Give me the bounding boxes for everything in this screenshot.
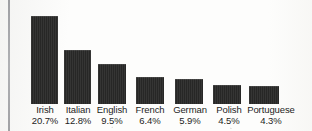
- bar: [31, 16, 58, 104]
- left-margin-rule: [8, 0, 10, 131]
- category-value: 4.3%: [242, 116, 300, 127]
- category-label: Portuguese 4.3%: [242, 105, 300, 126]
- bar-group: [64, 0, 91, 104]
- bar: [213, 85, 241, 104]
- bar: [136, 77, 164, 104]
- bar: [175, 79, 203, 104]
- bar-group: [98, 0, 126, 104]
- bar: [98, 64, 126, 104]
- bar-group: [213, 0, 241, 104]
- bar-group: [136, 0, 164, 104]
- bar-group: [249, 0, 279, 104]
- bar: [64, 50, 91, 104]
- bar-chart-plot-area: Irish 20.7% Italian 12.8% English 9.5% F…: [14, 0, 312, 131]
- category-labels-layer: Irish 20.7% Italian 12.8% English 9.5% F…: [14, 104, 312, 131]
- bar: [249, 86, 279, 104]
- chart-image: Irish 20.7% Italian 12.8% English 9.5% F…: [0, 0, 312, 131]
- category-name: Portuguese: [242, 105, 300, 116]
- bar-group: [175, 0, 203, 104]
- bars-layer: [14, 0, 312, 104]
- bar-group: [31, 0, 58, 104]
